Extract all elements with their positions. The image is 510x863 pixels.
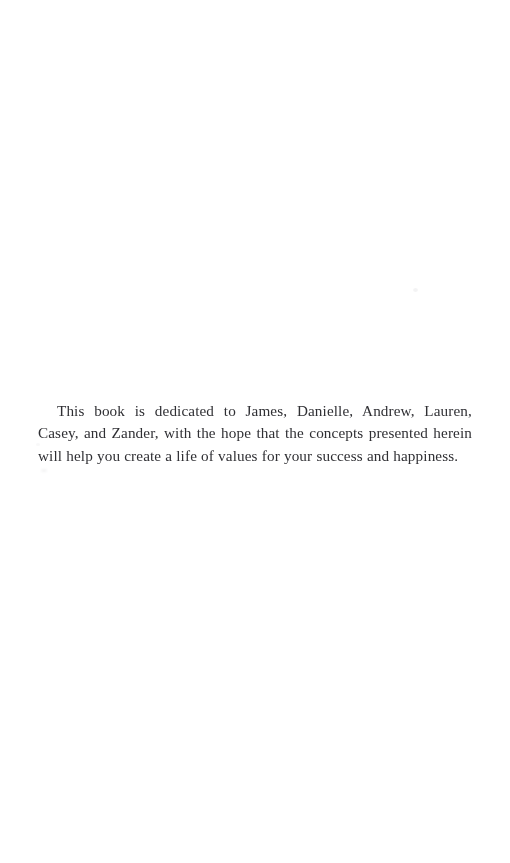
scan-artifact-speck — [41, 469, 47, 472]
dedication-page: This book is dedicated to James, Daniell… — [0, 0, 510, 863]
dedication-text-block: This book is dedicated to James, Daniell… — [38, 400, 472, 467]
dedication-paragraph: This book is dedicated to James, Daniell… — [38, 400, 472, 467]
scan-artifact-speck — [413, 288, 418, 292]
